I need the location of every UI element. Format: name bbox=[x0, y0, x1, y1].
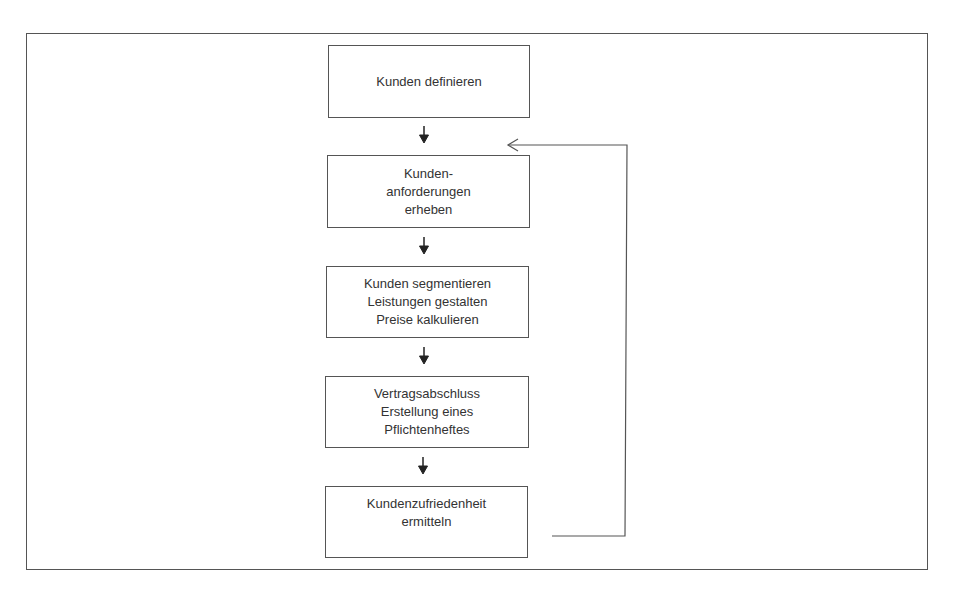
step-label-line: Pflichtenheftes bbox=[384, 421, 469, 439]
step-label-line: Leistungen gestalten bbox=[368, 293, 488, 311]
step-label-line: Kunden segmentieren bbox=[364, 275, 491, 293]
step-label-line: Erstellung eines bbox=[381, 403, 474, 421]
step-kundenanforderungen-erheben: Kunden- anforderungen erheben bbox=[327, 155, 530, 228]
step-label-line: anforderungen bbox=[386, 183, 471, 201]
step-label-line: Kundenzufriedenheit bbox=[367, 495, 486, 513]
step-label: Kunden definieren bbox=[376, 73, 482, 91]
step-segmentieren-gestalten-kalkulieren: Kunden segmentieren Leistungen gestalten… bbox=[326, 266, 529, 338]
step-label-line: Vertragsabschluss bbox=[374, 385, 480, 403]
step-label-line: ermitteln bbox=[402, 513, 452, 531]
step-kundenzufriedenheit-ermitteln: Kundenzufriedenheit ermitteln bbox=[325, 486, 528, 558]
step-label-line: erheben bbox=[405, 201, 453, 219]
step-kunden-definieren: Kunden definieren bbox=[328, 45, 530, 118]
step-label-line: Kunden- bbox=[404, 165, 453, 183]
step-label-line: Preise kalkulieren bbox=[376, 311, 479, 329]
step-vertragsabschluss-pflichtenheft: Vertragsabschluss Erstellung eines Pflic… bbox=[325, 376, 529, 448]
